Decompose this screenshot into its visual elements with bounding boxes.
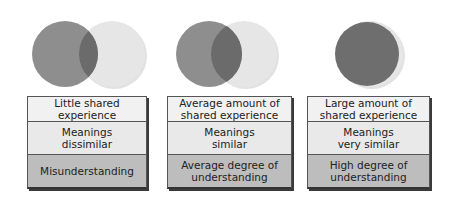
understanding-label: High degree of understanding bbox=[307, 155, 430, 189]
meanings-label: Meanings dissimilar bbox=[27, 122, 147, 155]
outcome-stack: Average amount of shared experience Mean… bbox=[167, 96, 292, 189]
panel-little-shared: Little shared experience Meanings dissim… bbox=[0, 0, 150, 210]
meanings-label: Meanings very similar bbox=[307, 122, 430, 155]
venn-diagram-small-overlap bbox=[28, 18, 148, 90]
panel-average-shared: Average amount of shared experience Mean… bbox=[150, 0, 300, 210]
understanding-label: Misunderstanding bbox=[27, 155, 147, 189]
understanding-label: Average degree of understanding bbox=[167, 155, 292, 189]
meanings-label: Meanings similar bbox=[167, 122, 292, 155]
shared-experience-label: Large amount of shared experience bbox=[307, 96, 430, 122]
venn-diagram-large-overlap bbox=[330, 18, 420, 90]
outcome-stack: Large amount of shared experience Meanin… bbox=[307, 96, 430, 189]
shared-experience-label: Little shared experience bbox=[27, 96, 147, 122]
outcome-stack: Little shared experience Meanings dissim… bbox=[27, 96, 147, 189]
venn-diagram-medium-overlap bbox=[172, 18, 292, 90]
panel-large-shared: Large amount of shared experience Meanin… bbox=[300, 0, 451, 210]
shared-experience-label: Average amount of shared experience bbox=[167, 96, 292, 122]
